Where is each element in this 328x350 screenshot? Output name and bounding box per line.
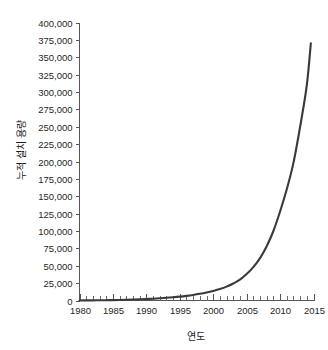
y-tick-label: 125,000 <box>38 209 72 220</box>
x-tick-label: 1990 <box>136 305 157 316</box>
x-tick-label: 2005 <box>237 305 258 316</box>
y-tick-label: 50,000 <box>43 261 72 272</box>
x-tick-label: 1995 <box>170 305 191 316</box>
x-tick-label: 2015 <box>304 305 325 316</box>
y-tick-label: 200,000 <box>38 157 72 168</box>
x-tick-label: 1980 <box>70 305 91 316</box>
x-tick-label: 1985 <box>103 305 124 316</box>
x-tick-label: 2000 <box>203 305 224 316</box>
x-axis-title: 연도 <box>187 331 205 342</box>
y-tick-label: 275,000 <box>38 104 72 115</box>
y-tick-label: 400,000 <box>38 18 72 29</box>
y-tick-label: 250,000 <box>38 122 72 133</box>
y-tick-label: 100,000 <box>38 226 72 237</box>
chart-container: 025,00050,00075,000100,000125,000150,000… <box>0 0 328 350</box>
y-tick-label: 225,000 <box>38 139 72 150</box>
y-tick-label: 375,000 <box>38 35 72 46</box>
y-tick-label: 350,000 <box>38 52 72 63</box>
y-tick-label: 175,000 <box>38 174 72 185</box>
y-axis-tick-labels: 025,00050,00075,000100,000125,000150,000… <box>38 18 72 307</box>
y-tick-label: 325,000 <box>38 70 72 81</box>
y-tick-label: 25,000 <box>43 278 72 289</box>
x-tick-label: 2010 <box>270 305 291 316</box>
cumulative-capacity-line-chart: 025,00050,00075,000100,000125,000150,000… <box>0 0 328 350</box>
y-tick-label: 300,000 <box>38 87 72 98</box>
y-axis-title: 누적 설치 용량 <box>16 120 27 180</box>
y-tick-label: 75,000 <box>43 243 72 254</box>
y-tick-label: 150,000 <box>38 191 72 202</box>
